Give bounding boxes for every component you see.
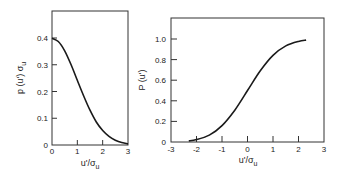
chart-canvas: 00.10.20.30.4 0123 p (u') σu u'/σu 00.20…	[0, 0, 339, 181]
y-tick-label: 0.4	[155, 97, 167, 106]
x-tick-label: 2	[100, 147, 105, 156]
x-tick-label: -3	[167, 145, 175, 154]
x-tick-label: 2	[296, 145, 301, 154]
pdf-curve	[52, 38, 128, 144]
y-tick-label: 0.3	[37, 61, 49, 70]
right-chart-frame	[171, 18, 324, 142]
right-x-ticks: -3-2-10123	[167, 136, 326, 154]
left-chart-pdf: 00.10.20.30.4 0123 p (u') σu u'/σu	[15, 11, 131, 170]
cdf-curve	[189, 40, 306, 141]
y-tick-label: 0.2	[37, 88, 49, 97]
x-tick-label: -1	[218, 145, 226, 154]
y-tick-label: 1.0	[155, 35, 167, 44]
x-tick-label: 1	[271, 145, 276, 154]
y-tick-label: 0.6	[155, 76, 167, 85]
x-tick-label: 1	[75, 147, 80, 156]
y-tick-label: 0	[162, 138, 167, 147]
x-tick-label: -2	[193, 145, 201, 154]
y-tick-label: 0.1	[37, 114, 49, 123]
y-tick-label: 0.4	[37, 34, 49, 43]
right-chart-cdf: 00.20.40.60.81.0 -3-2-10123 P (u') u'/σu	[137, 18, 327, 167]
y-tick-label: 0.2	[155, 117, 167, 126]
x-tick-label: 3	[126, 147, 131, 156]
x-tick-label: 0	[50, 147, 55, 156]
right-x-axis-label: u'/σu	[239, 155, 258, 167]
left-chart-frame	[52, 11, 128, 145]
x-tick-label: 3	[322, 145, 327, 154]
right-y-ticks: 00.20.40.60.81.0	[155, 35, 177, 147]
left-y-ticks: 00.10.20.30.4	[37, 34, 57, 150]
left-x-axis-label: u'/σu	[81, 158, 100, 170]
left-y-axis-label: p (u') σu	[15, 62, 27, 94]
right-y-axis-label: P (u')	[137, 69, 147, 90]
y-tick-label: 0	[44, 141, 49, 150]
x-tick-label: 0	[245, 145, 250, 154]
y-tick-label: 0.8	[155, 56, 167, 65]
